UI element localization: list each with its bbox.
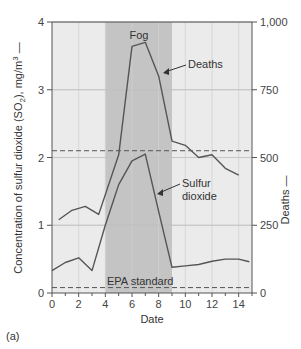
y-axis-title-right: Deaths —	[279, 176, 291, 225]
y-tick-label-right: 750	[260, 84, 278, 96]
x-tick-label: 6	[129, 298, 135, 310]
x-tick-label: 14	[233, 298, 245, 310]
fog-label: Fog	[130, 29, 149, 41]
panel-label: (a)	[6, 330, 19, 342]
y-axis-title-left: Concentration of sulfur dioxide (SO2), m…	[11, 42, 27, 273]
y-tick-label-right: 500	[260, 152, 278, 164]
x-tick-label: 8	[156, 298, 162, 310]
y-tick-label-left: 2	[38, 152, 44, 164]
x-axis-title: Date	[140, 313, 163, 325]
deaths-label: Deaths	[188, 58, 223, 70]
x-tick-label: 0	[49, 298, 55, 310]
sulfur-label-line1: Sulfur	[182, 177, 211, 189]
y-tick-label-left: 0	[38, 287, 44, 299]
x-tick-label: 12	[206, 298, 218, 310]
x-tick-label: 2	[76, 298, 82, 310]
y-tick-label-right: 1,000	[260, 16, 288, 28]
y-tick-label-left: 3	[38, 84, 44, 96]
y-tick-label-left: 1	[38, 219, 44, 231]
y-tick-label-right: 0	[260, 287, 266, 299]
epa-standard-label: EPA standard	[107, 275, 173, 287]
x-tick-label: 10	[179, 298, 191, 310]
chart: 024681012140123402505007501,000 Fog Deat…	[0, 0, 301, 349]
y-tick-label-left: 4	[38, 16, 44, 28]
sulfur-label-line2: dioxide	[182, 190, 217, 202]
x-tick-label: 4	[102, 298, 108, 310]
y-tick-label-right: 250	[260, 219, 278, 231]
